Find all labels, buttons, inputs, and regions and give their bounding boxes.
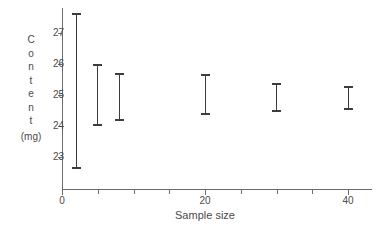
error-bar bbox=[92, 64, 104, 126]
x-tick-minor bbox=[241, 190, 242, 194]
x-tick-minor bbox=[169, 190, 170, 194]
x-tick-minor bbox=[277, 190, 278, 194]
y-axis-label-char: t bbox=[14, 114, 48, 128]
y-axis-label-char: n bbox=[14, 101, 48, 115]
error-bar bbox=[113, 73, 125, 121]
error-bar-stem bbox=[348, 86, 349, 110]
error-bar-stem bbox=[119, 73, 120, 121]
y-axis-label-char: t bbox=[14, 74, 48, 88]
error-bar-stem bbox=[76, 13, 77, 169]
error-bar bbox=[70, 13, 82, 169]
error-bar-cap-upper bbox=[115, 73, 124, 75]
error-bar-stem bbox=[97, 64, 98, 126]
y-axis-units-label: (mg) bbox=[14, 130, 48, 144]
error-bar-cap-lower bbox=[201, 113, 210, 115]
error-bar-cap-upper bbox=[344, 86, 353, 88]
error-bar-cap-lower bbox=[72, 167, 81, 169]
error-bar bbox=[342, 86, 354, 110]
error-bar-cap-upper bbox=[93, 64, 102, 66]
x-tick-minor bbox=[134, 190, 135, 194]
error-bar-stem bbox=[276, 83, 277, 112]
y-axis-label-char: o bbox=[14, 47, 48, 61]
y-axis-label-char: n bbox=[14, 60, 48, 74]
x-tick-label: 40 bbox=[328, 196, 368, 206]
y-tick-label: 23 bbox=[24, 152, 64, 162]
error-bar-cap-upper bbox=[201, 74, 210, 76]
y-axis-label-char: e bbox=[14, 87, 48, 101]
error-bar-cap-lower bbox=[344, 108, 353, 110]
x-tick-minor bbox=[98, 190, 99, 194]
error-bar-cap-upper bbox=[72, 13, 81, 15]
x-tick-label: 20 bbox=[185, 196, 225, 206]
error-bar-cap-lower bbox=[93, 124, 102, 126]
chart-root: 2324252627 02040 C o n t e n t (mg) Samp… bbox=[0, 0, 380, 228]
error-bar-cap-upper bbox=[272, 83, 281, 85]
error-bar-cap-lower bbox=[272, 110, 281, 112]
x-tick-minor bbox=[312, 190, 313, 194]
error-bar bbox=[271, 83, 283, 112]
x-axis-label: Sample size bbox=[130, 209, 280, 221]
error-bar-stem bbox=[205, 74, 206, 115]
error-bar bbox=[199, 74, 211, 115]
y-axis-label: C o n t e n t (mg) bbox=[14, 33, 48, 143]
x-tick-label: 0 bbox=[42, 196, 82, 206]
error-bar-cap-lower bbox=[115, 119, 124, 121]
y-axis-label-char: C bbox=[14, 33, 48, 47]
x-axis-line bbox=[62, 189, 372, 190]
plot-area: 2324252627 02040 C o n t e n t (mg) Samp… bbox=[0, 0, 380, 228]
